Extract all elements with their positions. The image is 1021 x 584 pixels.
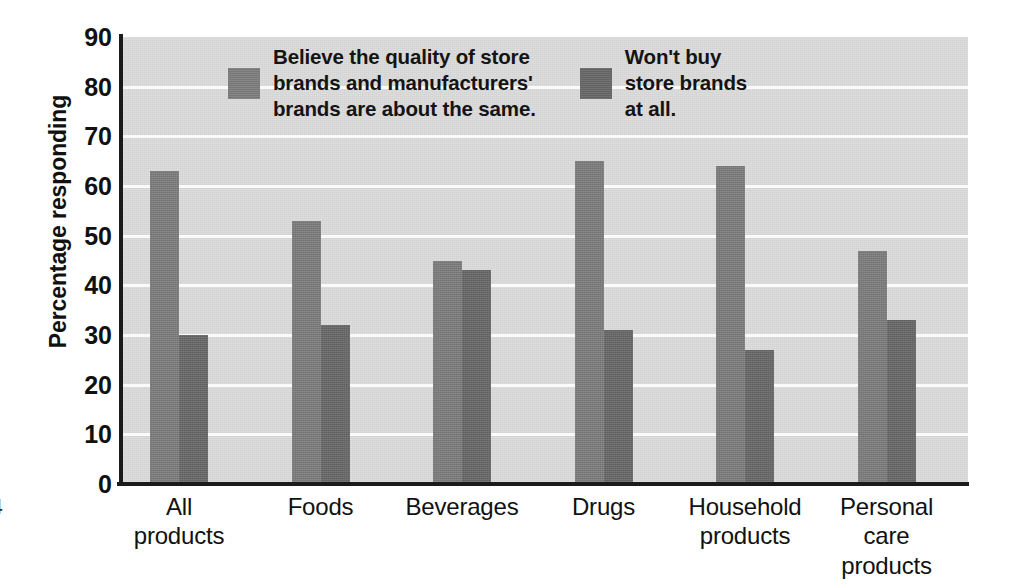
bar — [292, 221, 321, 484]
page-number-artifact: 4 — [0, 494, 11, 522]
legend: Believe the quality of store brands and … — [228, 44, 747, 123]
page-number-text: 4 — [0, 494, 3, 519]
bar — [887, 320, 916, 484]
y-axis-tick-label: 80 — [62, 75, 112, 100]
legend-label-series-a: Believe the quality of store brands and … — [273, 44, 536, 123]
y-axis-tick-label: 10 — [62, 422, 112, 447]
y-axis-tick-label: 70 — [62, 124, 112, 149]
x-axis-category-label: Household products — [674, 492, 816, 551]
y-axis-tick-label: 0 — [62, 472, 112, 497]
bar — [604, 330, 633, 484]
y-axis-line — [119, 34, 123, 486]
bar — [462, 270, 491, 484]
x-axis-category-label: Beverages — [391, 492, 533, 521]
y-axis-tick-label: 40 — [62, 273, 112, 298]
gridline — [119, 433, 968, 436]
legend-entry-believe-quality-same: Believe the quality of store brands and … — [228, 44, 536, 123]
bar — [150, 171, 179, 484]
y-axis-tick-label: 60 — [62, 174, 112, 199]
y-axis-tick-labels: 9080706050403020100 — [62, 37, 112, 484]
bar-chart-figure: Percentage responding 908070605040302010… — [0, 0, 1021, 584]
bar — [745, 350, 774, 484]
legend-swatch-icon-series-b — [580, 68, 612, 99]
x-axis-category-label: Foods — [250, 492, 392, 521]
bar — [575, 161, 604, 484]
bar — [858, 251, 887, 484]
bar — [716, 166, 745, 484]
x-axis-category-label: All products — [108, 492, 250, 551]
gridline — [119, 135, 968, 138]
x-axis-category-label: Drugs — [533, 492, 675, 521]
gridline — [119, 284, 968, 287]
legend-label-series-b: Won't buy store brands at all. — [625, 44, 747, 123]
y-axis-tick-label: 50 — [62, 224, 112, 249]
y-axis-tick-label: 30 — [62, 323, 112, 348]
bar — [433, 261, 462, 485]
gridline — [119, 235, 968, 238]
x-axis-category-labels: All productsFoodsBeveragesDrugsHousehold… — [119, 492, 968, 584]
bar — [321, 325, 350, 484]
y-axis-tick-label: 20 — [62, 373, 112, 398]
gridline — [119, 185, 968, 188]
gridline — [119, 384, 968, 387]
x-axis-category-label: Personal care products — [816, 492, 958, 580]
legend-swatch-icon-series-a — [228, 68, 260, 99]
gridline — [119, 334, 968, 337]
legend-entry-wont-buy-store-brands: Won't buy store brands at all. — [580, 44, 747, 123]
bar — [179, 335, 208, 484]
x-axis-line — [117, 482, 969, 486]
y-axis-tick-label: 90 — [62, 25, 112, 50]
